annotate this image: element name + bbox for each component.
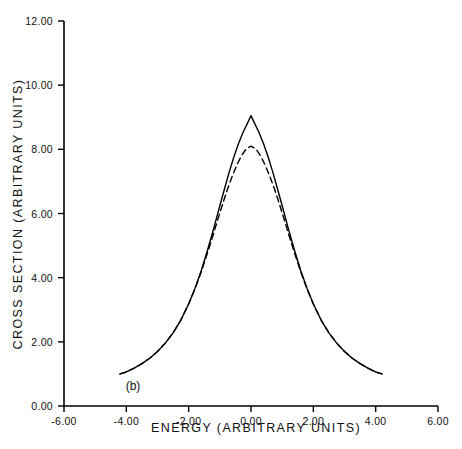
axes (64, 21, 438, 406)
panel-label: (b) (126, 379, 141, 393)
y-tick-label: 2.00 (31, 336, 53, 348)
solid-curve (120, 116, 382, 374)
x-axis-title: ENERGY (ARBITRARY UNITS) (151, 421, 361, 435)
y-tick-label: 6.00 (31, 208, 53, 220)
figure-panel-b: -6.00-4.00-2.000.002.004.006.00 0.002.00… (0, 0, 462, 449)
line-chart: -6.00-4.00-2.000.002.004.006.00 0.002.00… (0, 0, 462, 449)
x-tick-label: -4.00 (114, 415, 139, 427)
y-tick-label: 10.00 (25, 79, 53, 91)
x-tick-label: 4.00 (365, 415, 387, 427)
y-tick-label: 8.00 (31, 143, 53, 155)
y-tick-labels: 0.002.004.006.008.0010.0012.00 (25, 15, 53, 412)
data-curves (120, 116, 382, 374)
y-tick-label: 12.00 (25, 15, 53, 27)
x-tick-label: 6.00 (427, 415, 449, 427)
axis-ticks (58, 21, 438, 412)
y-axis-title: CROSS SECTION (ARBITRARY UNITS) (11, 79, 25, 350)
x-tick-label: -6.00 (51, 415, 76, 427)
y-tick-label: 0.00 (31, 400, 53, 412)
y-tick-label: 4.00 (31, 272, 53, 284)
dashed-curve (120, 146, 382, 374)
